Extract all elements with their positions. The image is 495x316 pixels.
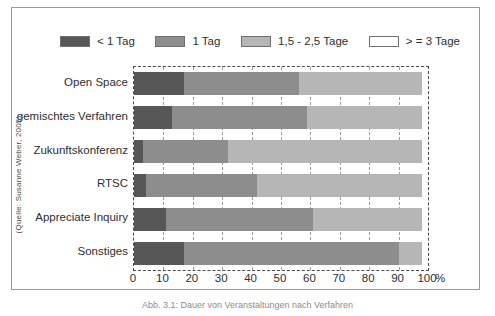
gridline [399, 67, 400, 270]
bar-row[interactable] [134, 106, 428, 129]
legend-label: 1,5 - 2,5 Tage [278, 35, 348, 47]
gridline [310, 67, 311, 270]
axis-tick-label: 70 [332, 272, 345, 284]
category-label: Sonstiges [0, 245, 128, 257]
plot-inner [134, 67, 428, 270]
bar-segment[interactable] [166, 208, 313, 231]
bar-segment[interactable] [399, 242, 423, 265]
bar-segment[interactable] [184, 72, 299, 95]
bar-segment[interactable] [422, 140, 428, 163]
chart-legend: < 1 Tag1 Tag1,5 - 2,5 Tage> = 3 Tage [60, 30, 460, 52]
figure-container: (Quelle: Susanne Weber, 2005) < 1 Tag1 T… [0, 0, 495, 316]
bar-segment[interactable] [184, 242, 399, 265]
bar-row[interactable] [134, 72, 428, 95]
bar-segment[interactable] [422, 242, 428, 265]
category-axis-labels: Open Spacegemischtes VerfahrenZukunftsko… [0, 66, 128, 269]
gridline [340, 67, 341, 270]
category-label: gemischtes Verfahren [0, 110, 128, 122]
axis-tick-label: 40 [244, 272, 257, 284]
legend-label: 1 Tag [192, 35, 220, 47]
legend-item: 1 Tag [155, 35, 220, 47]
figure-caption: Abb. 3.1: Dauer von Veranstaltungen nach… [0, 300, 495, 310]
bar-segment[interactable] [134, 242, 184, 265]
legend-label: > = 3 Tage [406, 35, 460, 47]
bar-segment[interactable] [134, 174, 146, 197]
gridline [252, 67, 253, 270]
bar-segment[interactable] [134, 106, 172, 129]
gridline [369, 67, 370, 270]
bar-segment[interactable] [422, 72, 428, 95]
bar-segment[interactable] [134, 72, 184, 95]
bar-segment[interactable] [422, 208, 428, 231]
plot-area [133, 66, 429, 271]
category-label: Appreciate Inquiry [0, 211, 128, 223]
bar-segment[interactable] [422, 174, 428, 197]
axis-tick-label: 50 [274, 272, 287, 284]
value-axis: % 0102030405060708090100 [133, 272, 427, 290]
category-label: Zukunftskonferenz [0, 144, 128, 156]
legend-swatch-icon [60, 36, 90, 47]
axis-tick-label: 60 [303, 272, 316, 284]
bar-segment[interactable] [313, 208, 422, 231]
axis-tick-label: 100 [417, 272, 436, 284]
category-label: Open Space [0, 76, 128, 88]
legend-swatch-icon [241, 36, 271, 47]
axis-tick-label: 0 [130, 272, 136, 284]
legend-swatch-icon [155, 36, 185, 47]
gridline [222, 67, 223, 270]
axis-tick-label: 20 [185, 272, 198, 284]
bar-segment[interactable] [228, 140, 422, 163]
legend-label: < 1 Tag [97, 35, 135, 47]
axis-tick-label: 30 [215, 272, 228, 284]
gridline [193, 67, 194, 270]
legend-item: 1,5 - 2,5 Tage [241, 35, 348, 47]
category-label: RTSC [0, 177, 128, 189]
legend-swatch-icon [369, 36, 399, 47]
bar-segment[interactable] [143, 140, 228, 163]
axis-tick-label: 90 [391, 272, 404, 284]
bar-segment[interactable] [307, 106, 422, 129]
bar-segment[interactable] [299, 72, 422, 95]
bar-segment[interactable] [172, 106, 307, 129]
bar-row[interactable] [134, 242, 428, 265]
legend-item: > = 3 Tage [369, 35, 460, 47]
bar-segment[interactable] [134, 140, 143, 163]
bar-row[interactable] [134, 140, 428, 163]
gridline [163, 67, 164, 270]
bar-segment[interactable] [134, 208, 166, 231]
axis-tick-label: 80 [362, 272, 375, 284]
bar-row[interactable] [134, 174, 428, 197]
bar-segment[interactable] [146, 174, 258, 197]
gridline [281, 67, 282, 270]
bar-segment[interactable] [422, 106, 428, 129]
bar-segment[interactable] [257, 174, 422, 197]
legend-item: < 1 Tag [60, 35, 135, 47]
bar-row[interactable] [134, 208, 428, 231]
axis-tick-label: 10 [156, 272, 169, 284]
